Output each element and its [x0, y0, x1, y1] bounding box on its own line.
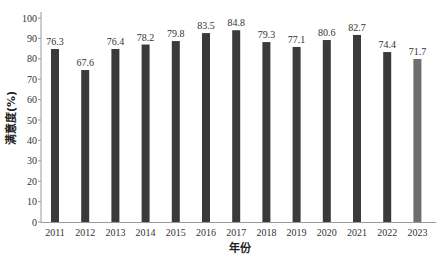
y-tick-label: 90	[27, 33, 37, 44]
bar-2012	[81, 70, 89, 222]
bar-2022	[383, 52, 391, 222]
y-axis-title: 满意度(%)	[4, 91, 18, 145]
bar-2023	[413, 59, 421, 222]
x-axis-ticks: 2011201220132014201520162017201820192020…	[45, 227, 427, 238]
x-tick-label: 2018	[256, 227, 276, 238]
y-tick-label: 40	[27, 135, 37, 146]
y-tick-label: 80	[27, 53, 37, 64]
bar-2018	[262, 42, 270, 222]
y-tick-label: 0	[32, 217, 37, 228]
bar-2013	[111, 49, 119, 222]
y-tick-label: 100	[22, 13, 37, 24]
bar-value-label: 82.7	[348, 22, 366, 33]
bar-value-label: 83.5	[197, 20, 215, 31]
bar-value-label: 71.7	[409, 46, 427, 57]
y-tick-label: 70	[27, 74, 37, 85]
x-tick-label: 2014	[136, 227, 156, 238]
x-tick-label: 2011	[45, 227, 65, 238]
bar-chart: 0102030405060708090100 76.367.676.478.27…	[0, 0, 443, 266]
x-axis-title: 年份	[229, 241, 252, 255]
bar-2019	[293, 47, 301, 222]
bar-2021	[353, 35, 361, 222]
y-tick-label: 10	[27, 196, 37, 207]
bar-value-label: 79.8	[167, 28, 185, 39]
bar-2017	[232, 30, 240, 222]
bar-2016	[202, 33, 210, 222]
bar-2020	[323, 40, 331, 222]
y-axis-ticks: 0102030405060708090100	[22, 13, 41, 228]
bar-value-label: 76.3	[46, 36, 64, 47]
y-tick-label: 60	[27, 94, 37, 105]
bar-value-label: 67.6	[76, 57, 94, 68]
bar-value-label: 78.2	[137, 32, 155, 43]
bar-value-label: 77.1	[288, 34, 306, 45]
x-tick-label: 2021	[347, 227, 367, 238]
bar-2011	[51, 49, 59, 222]
x-tick-label: 2022	[377, 227, 397, 238]
x-tick-label: 2020	[317, 227, 337, 238]
bar-value-label: 76.4	[107, 36, 125, 47]
bars: 76.367.676.478.279.883.584.879.377.180.6…	[46, 17, 426, 222]
x-tick-label: 2015	[166, 227, 186, 238]
bar-value-label: 80.6	[318, 27, 336, 38]
bar-value-label: 79.3	[258, 29, 276, 40]
x-tick-label: 2013	[105, 227, 125, 238]
x-tick-label: 2017	[226, 227, 246, 238]
x-tick-label: 2016	[196, 227, 216, 238]
y-tick-label: 50	[27, 115, 37, 126]
bar-value-label: 74.4	[378, 39, 396, 50]
bar-2015	[172, 41, 180, 222]
y-tick-label: 30	[27, 155, 37, 166]
y-tick-label: 20	[27, 176, 37, 187]
x-tick-label: 2012	[75, 227, 95, 238]
x-tick-label: 2019	[287, 227, 307, 238]
bar-value-label: 84.8	[227, 17, 245, 28]
x-tick-label: 2023	[407, 227, 427, 238]
bar-2014	[142, 45, 150, 222]
